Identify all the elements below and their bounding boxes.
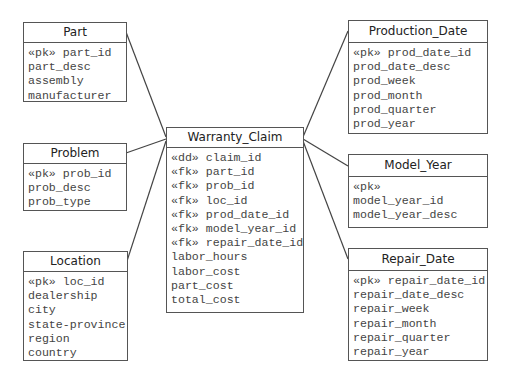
entity-attributes: «pk» model_year_id model_year_desc xyxy=(349,177,487,225)
entity-attributes: «dd» claim_id «fk» part_id «fk» prob_id … xyxy=(167,148,303,309)
attribute: repair_quarter xyxy=(353,331,487,345)
entity-title: Warranty_Claim xyxy=(167,128,303,148)
entity-location: Location «pk» loc_id dealership city sta… xyxy=(23,251,128,361)
attribute-pk: «pk» prod_date_id xyxy=(353,46,487,60)
line-problem-to-warranty-claim xyxy=(126,139,166,153)
entity-attributes: «pk» part_id part_desc assembly manufact… xyxy=(24,43,126,105)
attribute-fk: «fk» part_id xyxy=(171,165,303,179)
attribute-pk: «pk» repair_date_id xyxy=(353,274,487,288)
entity-warranty-claim: Warranty_Claim «dd» claim_id «fk» part_i… xyxy=(166,127,304,313)
attribute: dealership xyxy=(28,289,127,303)
line-production-date-to-warranty-claim xyxy=(303,31,348,137)
attribute: model_year_id xyxy=(353,194,487,208)
attribute: prob_type xyxy=(28,195,126,209)
entity-repair-date: Repair_Date «pk» repair_date_id repair_d… xyxy=(348,248,488,361)
attribute: repair_year xyxy=(353,345,487,359)
entity-title: Part xyxy=(24,23,126,43)
entity-attributes: «pk» prod_date_id prod_date_desc prod_we… xyxy=(349,43,487,133)
entity-model-year: Model_Year «pk» model_year_id model_year… xyxy=(348,154,488,228)
attribute-fk: «fk» model_year_id xyxy=(171,222,303,236)
line-location-to-warranty-claim xyxy=(127,141,166,261)
attribute: repair_date_desc xyxy=(353,288,487,302)
attribute-dd: «dd» claim_id xyxy=(171,151,303,165)
entity-production-date: Production_Date «pk» prod_date_id prod_d… xyxy=(348,20,488,134)
attribute: prod_quarter xyxy=(353,103,487,117)
entity-title: Location xyxy=(24,252,127,272)
attribute: manufacturer xyxy=(28,89,126,103)
attribute-pk: «pk» loc_id xyxy=(28,275,127,289)
entity-part: Part «pk» part_id part_desc assembly man… xyxy=(23,22,127,102)
attribute-fk: «fk» prod_date_id xyxy=(171,208,303,222)
entity-attributes: «pk» repair_date_id repair_date_desc rep… xyxy=(349,271,487,361)
attribute: model_year_desc xyxy=(353,208,487,222)
line-part-to-warranty-claim xyxy=(126,32,166,137)
attribute: part_desc xyxy=(28,60,126,74)
entity-title: Production_Date xyxy=(349,21,487,43)
attribute: prod_week xyxy=(353,74,487,88)
attribute: country xyxy=(28,346,127,360)
attribute-pk: «pk» part_id xyxy=(28,46,126,60)
entity-attributes: «pk» loc_id dealership city state-provin… xyxy=(24,272,127,362)
attribute: region xyxy=(28,332,127,346)
attribute-pk: «pk» xyxy=(353,180,487,194)
attribute-measure: labor_cost xyxy=(171,265,303,279)
attribute: assembly xyxy=(28,74,126,88)
attribute-measure: total_cost xyxy=(171,293,303,307)
line-model-year-to-warranty-claim xyxy=(303,139,348,166)
attribute-measure: labor_hours xyxy=(171,250,303,264)
entity-title: Problem xyxy=(24,144,126,164)
attribute-fk: «fk» loc_id xyxy=(171,194,303,208)
attribute: repair_week xyxy=(353,302,487,316)
attribute-fk: «fk» prob_id xyxy=(171,179,303,193)
attribute: prod_month xyxy=(353,89,487,103)
attribute-pk: «pk» prob_id xyxy=(28,167,126,181)
attribute: prob_desc xyxy=(28,181,126,195)
attribute: prod_date_desc xyxy=(353,60,487,74)
entity-problem: Problem «pk» prob_id prob_desc prob_type xyxy=(23,143,127,211)
attribute: prod_year xyxy=(353,117,487,131)
attribute: city xyxy=(28,303,127,317)
entity-title: Model_Year xyxy=(349,155,487,177)
entity-attributes: «pk» prob_id prob_desc prob_type xyxy=(24,164,126,212)
attribute: state-province xyxy=(28,318,127,332)
attribute-measure: part_cost xyxy=(171,279,303,293)
entity-title: Repair_Date xyxy=(349,249,487,271)
attribute-fk: «fk» repair_date_id xyxy=(171,236,303,250)
attribute: repair_month xyxy=(353,317,487,331)
line-repair-date-to-warranty-claim xyxy=(303,141,348,259)
